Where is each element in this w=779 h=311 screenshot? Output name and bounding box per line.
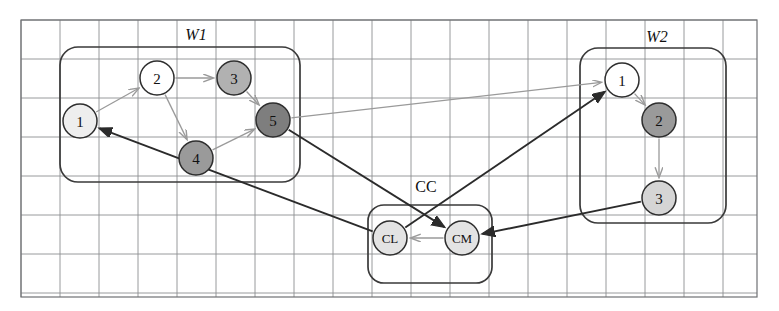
edge-ccCL-to-w2n1: [405, 92, 604, 228]
node-label-w2n3: 3: [655, 191, 663, 207]
node-label-w1n2: 2: [153, 71, 161, 87]
edge-w1n2-to-w1n4: [165, 95, 187, 139]
node-w2n1[interactable]: 1: [605, 63, 639, 97]
node-w2n2[interactable]: 2: [642, 103, 676, 137]
node-label-w2n1: 1: [618, 73, 626, 89]
node-label-w2n2: 2: [655, 113, 663, 129]
node-label-w1n3: 3: [230, 71, 238, 87]
diagram-canvas: 12345CLCM123 W1CCW2: [0, 0, 779, 311]
node-ccCM[interactable]: CM: [445, 221, 479, 255]
edge-w2n1-to-w2n2: [635, 94, 645, 105]
edge-w1n4-to-w1n5: [213, 129, 255, 150]
node-w1n3[interactable]: 3: [217, 61, 251, 95]
node-label-w1n1: 1: [76, 114, 84, 130]
group-label-w1: W1: [185, 26, 206, 43]
node-label-ccCM: CM: [452, 231, 473, 246]
node-w1n5[interactable]: 5: [256, 103, 290, 137]
node-w1n4[interactable]: 4: [179, 141, 213, 175]
group-label-cc: CC: [415, 178, 436, 195]
diagram-svg: 12345CLCM123 W1CCW2: [0, 0, 779, 311]
group-label-w2: W2: [646, 28, 667, 45]
node-label-w1n4: 4: [192, 151, 200, 167]
node-label-w1n5: 5: [269, 113, 277, 129]
node-ccCL[interactable]: CL: [373, 221, 407, 255]
node-w1n2[interactable]: 2: [140, 61, 174, 95]
edge-w1n5-to-w2n1: [291, 82, 601, 118]
group-labels: W1CCW2: [185, 26, 667, 195]
edge-w1n1-to-w1n2: [96, 88, 139, 112]
nodes: 12345CLCM123: [63, 61, 676, 255]
node-w1n1[interactable]: 1: [63, 104, 97, 138]
edge-w2n3-to-ccCM: [483, 202, 641, 234]
edge-ccCL-to-w1n1: [100, 128, 373, 231]
node-w2n3[interactable]: 3: [642, 181, 676, 215]
node-label-ccCL: CL: [382, 231, 399, 246]
